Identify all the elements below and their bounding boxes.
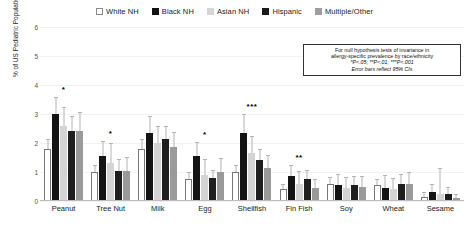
error-bar-cap	[172, 132, 176, 133]
x-axis-tick-label: Egg	[181, 204, 228, 220]
error-bar-cap	[187, 172, 191, 173]
bar[interactable]	[76, 131, 83, 201]
medium-gray-swatch-icon	[315, 8, 322, 15]
error-bar-cap	[391, 178, 395, 179]
bar-slot	[123, 27, 130, 201]
error-bar-cap	[305, 170, 309, 171]
bar[interactable]	[115, 171, 122, 201]
bar[interactable]	[154, 143, 161, 201]
x-axis-tick-label: Fin Fish	[276, 204, 323, 220]
bar[interactable]	[351, 185, 358, 201]
bar[interactable]	[60, 126, 67, 201]
bar[interactable]	[68, 131, 75, 201]
bar[interactable]	[256, 160, 263, 201]
x-axis-tick-label: Milk	[134, 204, 181, 220]
error-bar-cap	[281, 184, 285, 185]
error-bar-cap	[430, 184, 434, 185]
legend-label: White NH	[106, 7, 139, 16]
bar-slot	[146, 27, 153, 201]
x-axis-line	[40, 200, 464, 201]
bar[interactable]	[146, 133, 153, 201]
bar-slot	[185, 27, 192, 201]
error-bar-cap	[289, 165, 293, 166]
error-bar-cap	[125, 157, 129, 158]
bar[interactable]	[264, 168, 271, 201]
bar[interactable]	[185, 179, 192, 201]
bar-group: ***	[228, 27, 275, 201]
bar-slot	[296, 27, 303, 201]
light-gray-swatch-icon	[207, 8, 214, 15]
error-bar-cap	[164, 126, 168, 127]
error-bar-cap	[422, 192, 426, 193]
bar[interactable]	[398, 184, 405, 201]
legend-label: Black NH	[162, 7, 194, 16]
legend-label: Multiple/Other	[325, 7, 373, 16]
bar[interactable]	[232, 172, 239, 201]
bar[interactable]	[304, 179, 311, 201]
significance-marker: *	[109, 131, 113, 136]
error-bar-cap	[242, 114, 246, 115]
error-bar-cap	[54, 97, 58, 98]
legend-item-white-nh: White NH	[96, 7, 139, 16]
bar-slot	[248, 27, 255, 201]
bar[interactable]	[99, 156, 106, 201]
bar-slot	[288, 27, 295, 201]
bar[interactable]	[335, 185, 342, 201]
chart-legend: White NH Black NH Asian NH Hispanic Mult…	[0, 7, 469, 16]
bar[interactable]	[52, 114, 59, 201]
bar[interactable]	[193, 156, 200, 201]
bar[interactable]	[123, 171, 130, 201]
error-bar-cap	[234, 165, 238, 166]
bar-slot	[240, 27, 247, 201]
legend-label: Asian NH	[217, 7, 249, 16]
x-axis-tick-label: Tree Nut	[87, 204, 134, 220]
legend-item-asian-nh: Asian NH	[207, 7, 249, 16]
bar[interactable]	[162, 139, 169, 201]
bar[interactable]	[138, 149, 145, 201]
error-bar-cap	[352, 176, 356, 177]
error-bar-cap	[117, 159, 121, 160]
y-axis-label: % of US Pediatric Population	[12, 0, 19, 77]
bar[interactable]	[91, 172, 98, 201]
bar[interactable]	[209, 178, 216, 201]
bar-slot	[115, 27, 122, 201]
bar[interactable]	[359, 187, 366, 202]
bar[interactable]	[406, 184, 413, 201]
legend-label: Hispanic	[272, 7, 302, 16]
bar-slot	[44, 27, 51, 201]
error-bar-cap	[109, 143, 113, 144]
bar[interactable]	[170, 147, 177, 201]
bar[interactable]	[107, 163, 114, 201]
bar-slot	[264, 27, 271, 201]
bar[interactable]	[217, 172, 224, 201]
gridline	[40, 201, 464, 202]
error-bar-cap	[297, 171, 301, 172]
bar-group: *	[40, 27, 87, 201]
bar[interactable]	[240, 133, 247, 201]
error-bar-cap	[375, 179, 379, 180]
bar[interactable]	[296, 184, 303, 201]
y-axis-tick: 4	[28, 82, 38, 89]
dark-swatch-icon	[262, 8, 269, 15]
significance-marker: *	[203, 132, 207, 137]
x-axis-labels: PeanutTree NutMilkEggShellfishFin FishSo…	[40, 204, 464, 220]
significance-note-box: For null hypothesis tests of invariance …	[303, 44, 461, 76]
white-swatch-icon	[96, 8, 103, 15]
significance-marker: ***	[246, 104, 257, 109]
error-bar-cap	[140, 139, 144, 140]
bar[interactable]	[44, 149, 51, 201]
y-axis-tick: 3	[28, 111, 38, 118]
error-bar-cap	[78, 112, 82, 113]
bar[interactable]	[327, 184, 334, 201]
bar-slot	[201, 27, 208, 201]
error-bar-cap	[148, 116, 152, 117]
bar[interactable]	[288, 176, 295, 201]
note-line-4: Error bars reflect 95% CIs	[306, 66, 458, 72]
bar-slot	[68, 27, 75, 201]
error-bar-cap	[399, 174, 403, 175]
bar[interactable]	[374, 185, 381, 201]
bar[interactable]	[201, 175, 208, 201]
legend-item-multiple-other: Multiple/Other	[315, 7, 373, 16]
y-axis-tick: 0	[28, 198, 38, 205]
bar[interactable]	[248, 153, 255, 201]
